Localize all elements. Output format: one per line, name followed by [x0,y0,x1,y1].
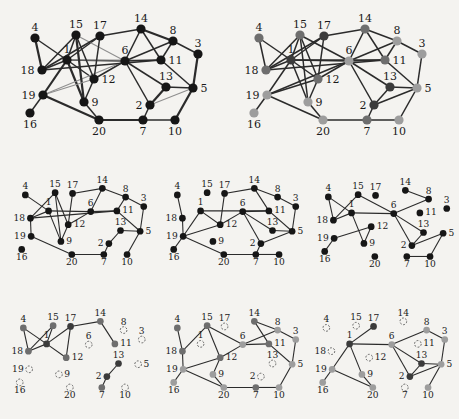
graph-edge-6-11 [91,211,117,212]
graph-node-label-3: 3 [293,326,299,336]
graph-node-12 [89,74,98,83]
graph-node-label-10: 10 [424,259,436,269]
graph-node-label-11: 11 [274,338,286,348]
graph-node-label-10: 10 [121,257,133,267]
graph-edge-4-18 [177,328,182,351]
graph-node-label-8: 8 [426,186,432,196]
graph-edge-1-12 [47,344,67,358]
graph-node-label-10: 10 [392,125,406,138]
graph-node-label-11: 11 [120,338,132,348]
graph-node-label-5: 5 [298,359,304,369]
graph-node-label-15: 15 [293,18,307,31]
graph-node-label-5: 5 [146,226,152,236]
graph-node-12 [368,223,375,230]
graph-node-label-17: 17 [368,313,380,323]
graph-node-label-20: 20 [64,390,76,400]
graph-node-13 [420,229,427,236]
graph-node-label-11: 11 [425,207,437,217]
graph-node-11 [112,341,119,348]
graph-node-5 [412,83,421,92]
cluster-subset-dark-medium: 1234567891011121314151617181920 [9,309,159,402]
graph-node-6 [120,56,129,65]
graph-node-label-15: 15 [201,179,213,189]
graph-node-removed-11 [415,341,422,348]
graph-node-removed-13 [269,360,276,367]
graph-edge-5-10 [399,88,417,120]
graph-node-label-14: 14 [134,12,148,25]
graph-node-9 [210,371,217,378]
graph-edge-1-17 [350,326,374,343]
graph-node-label-4: 4 [20,314,26,324]
graph-node-13 [418,360,425,367]
graph-node-label-18: 18 [316,215,328,225]
graph-node-label-3: 3 [293,193,299,203]
graph-node-15 [71,30,80,39]
graph-node-label-3: 3 [195,37,202,50]
graph-node-label-4: 4 [256,21,263,34]
graph-node-label-13: 13 [418,219,430,229]
graph-node-5 [438,361,445,368]
graph-node-label-17: 17 [370,182,382,192]
graph-node-20 [94,115,103,124]
graph-node-label-14: 14 [97,175,109,185]
graph-node-label-17: 17 [317,19,331,32]
graph-edge-8-14 [141,29,173,41]
graph-node-label-12: 12 [74,219,86,229]
graph-node-15 [50,322,57,329]
graph-node-1 [348,210,355,217]
graph-edge-12-19 [267,79,318,95]
graph-node-2 [104,373,111,380]
graph-node-label-2: 2 [96,371,102,381]
graph-node-label-19: 19 [166,364,178,374]
graph-node-label-16: 16 [14,385,26,395]
graph-node-label-13: 13 [416,350,428,360]
graph-edge-5-10 [175,88,193,120]
graph-node-label-18: 18 [21,64,35,77]
graph-node-removed-17 [221,323,228,330]
graph-node-19 [38,90,47,99]
graph-node-label-16: 16 [23,118,37,131]
graph-node-label-1: 1 [349,199,355,209]
graph-edge-1-19 [332,344,349,369]
graph-node-label-18: 18 [13,213,25,223]
graph-node-label-10: 10 [119,390,131,400]
graph-node-label-18: 18 [165,213,177,223]
graph-node-label-6: 6 [389,331,395,341]
graph-node-4 [174,325,181,332]
graph-node-label-14: 14 [95,308,107,318]
graph-edge-12-15 [207,326,220,358]
graph-edge-8-14 [365,29,397,41]
graph-node-1 [346,341,353,348]
graph-node-label-9: 9 [66,236,72,246]
cluster-subset-medium-light: 1234567891011121314151617181920 [163,309,313,402]
graph-node-label-4: 4 [323,314,329,324]
graph-node-label-14: 14 [358,12,372,25]
graph-node-17 [69,190,76,197]
graph-edge-11-18 [30,211,116,218]
graph-node-removed-2 [258,373,265,380]
graph-node-label-16: 16 [317,385,329,395]
graph-node-12 [65,221,72,228]
graph-node-label-5: 5 [298,226,304,236]
graph-node-2 [145,100,154,109]
graph-node-label-1: 1 [198,197,204,207]
graph-edge-5-10 [430,233,443,256]
graph-node-label-1: 1 [64,43,71,56]
graph-edge-3-5 [441,340,445,365]
graph-node-label-18: 18 [11,346,23,356]
graph-node-removed-14 [400,318,407,325]
graph-node-1 [43,341,50,348]
graph-node-label-7: 7 [364,125,371,138]
graph-node-label-8: 8 [121,317,127,327]
graph-node-label-16: 16 [319,254,331,264]
graph-node-label-6: 6 [122,44,129,57]
graph-node-13 [385,82,394,91]
graph-node-label-3: 3 [141,193,147,203]
graph-node-label-6: 6 [240,198,246,208]
graph-node-label-13: 13 [267,350,279,360]
graph-node-label-15: 15 [69,18,83,31]
graph-node-2 [407,373,414,380]
graph-node-12 [63,354,70,361]
graph-node-10 [170,115,179,124]
graph-node-19 [28,233,35,240]
